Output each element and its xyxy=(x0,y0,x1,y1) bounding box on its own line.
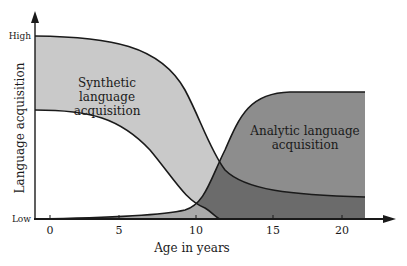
x-tick-5: 5 xyxy=(116,224,123,237)
analytic-label-line2: acquisition xyxy=(272,138,339,152)
x-tick-10: 10 xyxy=(189,224,203,237)
y-axis-arrow-icon xyxy=(31,11,39,23)
chart: 0 5 10 15 20 High Low Age in years Langu… xyxy=(0,0,407,266)
y-tick-high: High xyxy=(9,31,31,41)
x-tick-15: 15 xyxy=(266,224,280,237)
analytic-label-line1: Analytic language xyxy=(249,124,359,138)
x-axis-title: Age in years xyxy=(153,241,230,255)
x-tick-0: 0 xyxy=(47,224,54,237)
x-tick-20: 20 xyxy=(335,224,349,237)
synthetic-label-line2: language xyxy=(79,90,135,104)
y-axis-title: Language acquisition xyxy=(13,62,27,193)
synthetic-label-line3: acquisition xyxy=(74,104,141,118)
y-tick-low: Low xyxy=(12,214,31,224)
synthetic-label-line1: Synthetic xyxy=(78,76,136,90)
x-axis-arrow-icon xyxy=(383,215,396,223)
